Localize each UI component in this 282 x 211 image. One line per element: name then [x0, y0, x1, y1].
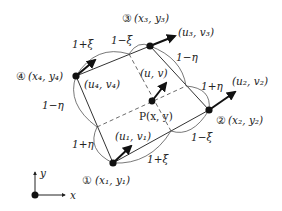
label-left-top: 1−η — [42, 99, 64, 111]
x-axis-label: x — [70, 189, 76, 201]
point-P-disp: (u, v) — [140, 67, 168, 79]
arrow-u4 — [76, 60, 95, 76]
node-4-dot — [72, 72, 79, 79]
label-bottom-left: 1+ξ — [147, 153, 169, 165]
point-P-dot — [149, 98, 156, 105]
node-1-number: ① — [82, 174, 92, 186]
node-4-disp: (u₄, v₄) — [84, 78, 120, 90]
node-2-coord: (x₂, y₂) — [228, 114, 263, 126]
node-1-disp: (u₁, v₁) — [115, 130, 151, 142]
arrow-u2 — [209, 92, 235, 110]
node-4-number: ④ — [16, 70, 26, 82]
arrow-u3 — [150, 36, 175, 46]
node-3-dot — [146, 42, 153, 49]
displacement-arrows — [76, 36, 235, 163]
arc-left-bottom — [94, 127, 113, 163]
node-2-dot — [205, 106, 212, 113]
arrow-uP — [152, 83, 166, 101]
y-axis-label: y — [39, 167, 47, 179]
node-2-disp: (u₂, v₂) — [232, 75, 268, 87]
point-P-coord: P(x, y) — [139, 110, 173, 122]
node-2-number: ② — [216, 114, 226, 126]
label-top-left: 1+ξ — [72, 38, 94, 50]
node-3-number: ③ — [122, 12, 132, 24]
label-bottom-right: 1−ξ — [191, 131, 213, 143]
edge-4-3 — [76, 46, 150, 76]
node-4-coord: (x₄, y₄) — [28, 70, 63, 82]
quad-element-diagram: y x ③ (x₃, y₃) (u₃, v₃) ④ (x₄, y₄) (u₄, … — [0, 0, 282, 211]
label-top-right: 1−ξ — [111, 34, 133, 46]
label-left-bottom: 1+η — [72, 138, 94, 150]
node-1-dot — [109, 159, 116, 166]
node-1-coord: (x₁, y₁) — [95, 174, 130, 186]
axes-origin-dot — [32, 192, 39, 199]
node-3-coord: (x₃, y₃) — [134, 12, 169, 24]
label-right-top: 1−η — [176, 51, 198, 63]
label-right-bottom: 1+η — [201, 80, 223, 92]
element-edges — [76, 46, 209, 163]
node-3-disp: (u₃, v₃) — [178, 26, 214, 38]
